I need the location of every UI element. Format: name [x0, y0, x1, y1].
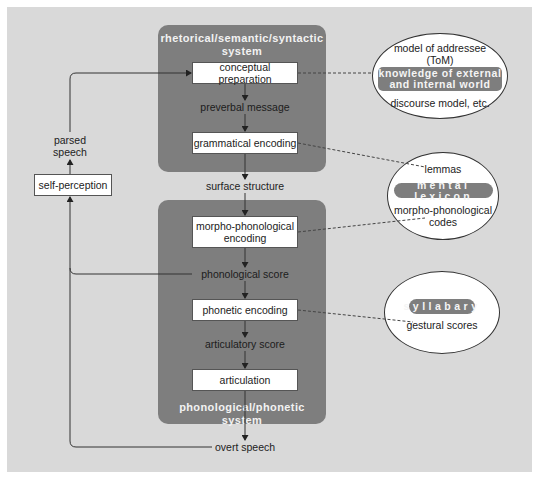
mental-lexicon-pill: mental lexicon [394, 183, 493, 198]
codes-line1: morpho-phonological [388, 204, 498, 216]
model-of-addressee-line2: (ToM) [373, 54, 507, 66]
syllabary-ellipse: syllabary gestural scores [384, 271, 500, 354]
surface-structure-label: surface structure [195, 180, 295, 192]
articulatory-score-label: articulatory score [195, 338, 295, 350]
morpho-phonological-label-line2: encoding [224, 232, 267, 244]
preverbal-message-label: preverbal message [195, 101, 295, 113]
phonetic-encoding-label: phonetic encoding [202, 304, 287, 316]
morpho-phonological-codes-label: morpho-phonological codes [388, 204, 498, 228]
phonological-score-label: phonological score [195, 268, 295, 280]
self-perception-box[interactable]: self-perception [34, 174, 112, 196]
conceptual-preparation-label: conceptual preparation [193, 61, 297, 85]
syllabary-pill: syllabary [409, 299, 475, 314]
conceptual-preparation-box[interactable]: conceptual preparation [192, 62, 298, 84]
overt-speech-label: overt speech [215, 441, 275, 453]
knowledge-of-world-pill: knowledge of external and internal world [378, 67, 502, 91]
gestural-scores-label: gestural scores [385, 319, 499, 331]
parsed-speech-line1: parsed [45, 134, 95, 146]
grammatical-encoding-label: grammatical encoding [194, 137, 297, 149]
knowledge-ellipse: model of addressee (ToM) knowledge of ex… [372, 33, 508, 119]
morpho-phonological-encoding-box[interactable]: morpho-phonological encoding [192, 216, 298, 248]
phonetic-encoding-box[interactable]: phonetic encoding [192, 299, 298, 321]
knowledge-pill-line2: and internal world [389, 79, 490, 90]
model-of-addressee-label: model of addressee (ToM) [373, 42, 507, 66]
codes-line2: codes [388, 216, 498, 228]
articulation-box[interactable]: articulation [192, 369, 298, 391]
lower-system-title: phonological/phonetic system [158, 401, 326, 427]
model-of-addressee-line1: model of addressee [373, 42, 507, 54]
articulation-label: articulation [220, 374, 271, 386]
parsed-speech-line2: speech [45, 146, 95, 158]
grammatical-encoding-box[interactable]: grammatical encoding [192, 132, 298, 154]
upper-system-title: rhetorical/semantic/syntactic system [158, 32, 326, 58]
morpho-phonological-label-line1: morpho-phonological [196, 220, 294, 232]
upper-system-title-line1: rhetorical/semantic/syntactic [158, 32, 326, 45]
self-perception-label: self-perception [39, 179, 108, 191]
parsed-speech-label: parsed speech [45, 134, 95, 158]
upper-system-title-line2: system [158, 45, 326, 58]
discourse-model-label: discourse model, etc. [373, 97, 507, 109]
lemmas-label: lemmas [388, 163, 498, 175]
mental-lexicon-ellipse: lemmas mental lexicon morpho-phonologica… [387, 152, 499, 240]
